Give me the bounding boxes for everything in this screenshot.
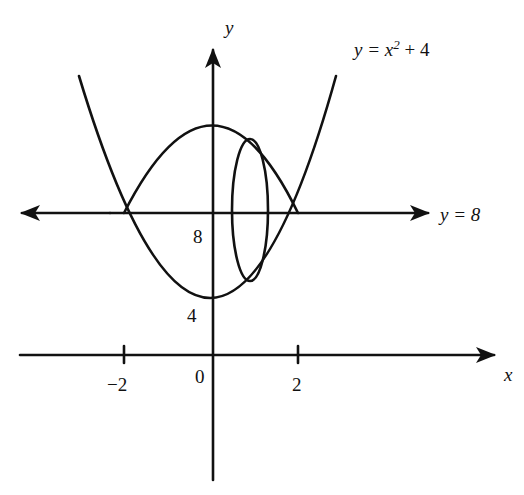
solid-of-revolution-diagram (0, 0, 524, 495)
parabola-curve (79, 76, 336, 298)
x-tick-label-0: 0 (195, 367, 205, 386)
y-axis-label: y (225, 18, 233, 37)
x-tick-label-neg2: −2 (107, 375, 127, 394)
y-tick-label-4: 4 (187, 306, 197, 325)
parabola-label-prefix: y = x (354, 39, 393, 60)
x-axis-label: x (504, 365, 512, 384)
x-tick-label-2: 2 (292, 375, 302, 394)
parabola-label-suffix: + 4 (400, 39, 430, 60)
reflected-arc-curve (124, 126, 298, 214)
parabola-equation-label: y = x2 + 4 (354, 40, 429, 59)
cross-section-ellipse (232, 139, 268, 281)
y-tick-label-8: 8 (193, 227, 203, 246)
line-y-equals-8-label: y = 8 (440, 205, 480, 224)
